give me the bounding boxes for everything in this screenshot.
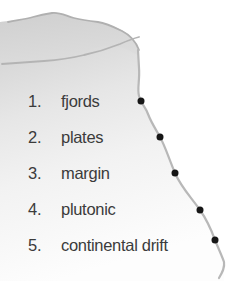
list-item-number: 1. — [28, 92, 50, 111]
list-item-number: 2. — [28, 128, 50, 147]
numbered-term-list: 1. fjords 2. plates 3. margin 4. plutoni… — [0, 0, 236, 281]
list-item-label: fjords — [61, 92, 100, 111]
list-item-label: continental drift — [61, 236, 168, 255]
diagram-canvas: 1. fjords 2. plates 3. margin 4. plutoni… — [0, 0, 236, 281]
list-item-number: 3. — [28, 164, 50, 183]
list-item-label: plutonic — [61, 200, 115, 219]
list-item-number: 5. — [28, 236, 50, 255]
list-item-label: plates — [61, 128, 103, 147]
list-item-label: margin — [61, 164, 110, 183]
list-item-number: 4. — [28, 200, 50, 219]
